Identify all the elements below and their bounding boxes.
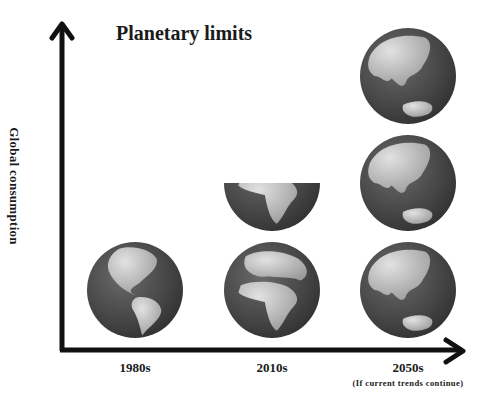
y-axis-label: Global consumption — [4, 121, 24, 251]
x-label-1980s: 1980s — [119, 360, 150, 376]
diagram-title: Planetary limits — [116, 22, 252, 45]
globes — [87, 28, 456, 338]
globe-2050s-1 — [360, 242, 456, 338]
globe-1980s-1 — [87, 242, 183, 338]
globe-2010s-half — [224, 135, 320, 231]
globe-2010s-1 — [224, 242, 320, 338]
x-label-2050s: 2050s — [392, 360, 423, 376]
globe-2050s-2 — [360, 135, 456, 231]
x-label-2010s: 2010s — [256, 360, 287, 376]
y-axis-label-text: Global consumption — [6, 127, 22, 245]
globe-land — [244, 144, 307, 173]
x-label-2050s-note: (If current trends continue) — [353, 378, 464, 388]
diagram-canvas — [0, 0, 492, 406]
globe-2050s-3 — [360, 28, 456, 124]
